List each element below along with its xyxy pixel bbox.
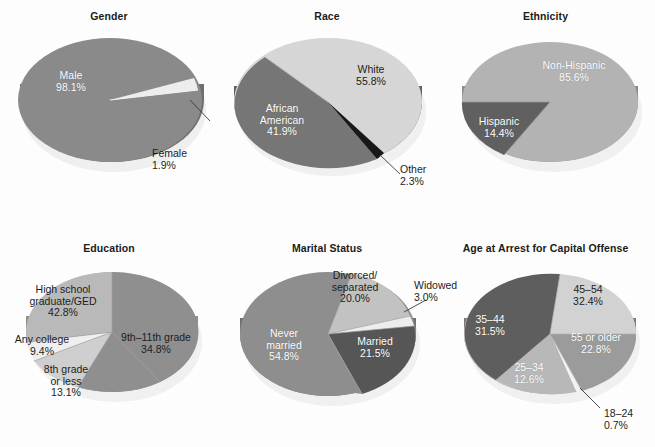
chart-title-gender: Gender	[0, 10, 218, 22]
chart-marital-status: Marital Status Divorced/ separated 20.0%…	[218, 228, 436, 447]
slice-label-married: Married 21.5%	[340, 336, 410, 359]
slice-label-divorced-separated: Divorced/ separated 20.0%	[316, 270, 394, 305]
chart-education: Education High school graduate/GED 42.8%…	[0, 228, 218, 447]
chart-title-marital-status: Marital Status	[218, 242, 436, 254]
slice-label-35-44: 35–44 31.5%	[456, 314, 524, 337]
slice-label-never-married: Never married 54.8%	[246, 328, 322, 363]
chart-gender: Gender Male 98.1% Female 1.9%	[0, 0, 218, 200]
chart-ethnicity: Ethnicity Non-Hispanic 85.6% Hispanic 14…	[436, 0, 655, 200]
slice-label-white: White 55.8%	[334, 64, 408, 87]
chart-race: Race White 55.8% African American 41.9% …	[218, 0, 436, 200]
chart-title-ethnicity: Ethnicity	[436, 10, 655, 22]
slice-label-25-34: 25–34 12.6%	[496, 362, 562, 385]
pie-chart-figure: Gender Male 98.1% Female 1.9%	[0, 0, 655, 447]
chart-title-education: Education	[0, 242, 218, 254]
slice-label-hispanic: Hispanic 14.4%	[460, 116, 538, 139]
slice-label-other: Other 2.3%	[400, 164, 426, 187]
slice-label-any-college: Any college 9.4%	[2, 334, 82, 357]
pie-ethnicity	[456, 26, 646, 188]
slice-label-female: Female 1.9%	[152, 148, 187, 171]
slice-label-non-hispanic: Non-Hispanic 85.6%	[520, 60, 628, 83]
chart-age-at-arrest: Age at Arrest for Capital Offense 45–54 …	[436, 228, 655, 447]
chart-title-age-at-arrest: Age at Arrest for Capital Offense	[436, 242, 655, 254]
slice-label-55-or-older: 55 or older 22.8%	[554, 332, 638, 355]
slice-label-8th-grade: 8th grade or less 13.1%	[30, 364, 102, 399]
slice-label-45-54: 45–54 32.4%	[552, 284, 624, 307]
slice-label-9th-11th-grade: 9th–11th grade 34.8%	[108, 332, 204, 355]
slice-label-male: Male 98.1%	[36, 70, 106, 93]
slice-label-african-american: African American 41.9%	[244, 103, 320, 138]
slice-label-high-school: High school graduate/GED 42.8%	[16, 284, 110, 319]
slice-label-18-24: 18–24 0.7%	[604, 408, 633, 431]
chart-title-race: Race	[218, 10, 436, 22]
